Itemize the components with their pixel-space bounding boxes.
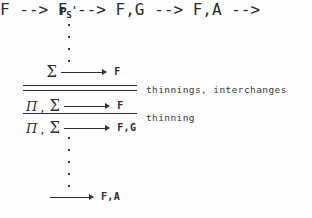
implication-arrow-icon	[64, 125, 110, 131]
sequent-succedent: F	[117, 101, 123, 111]
inference-rule-annotation: thinning	[146, 112, 195, 123]
top-formula-label: PS'	[60, 6, 78, 20]
sequent-succedent: F	[114, 67, 120, 77]
dot	[68, 161, 70, 163]
sequent-succedent: F,G	[117, 123, 136, 133]
antecedent-comma: ,	[37, 103, 49, 114]
sequent-row: Σ F	[46, 64, 121, 80]
sequent-row: Π , Σ F	[26, 98, 124, 114]
arrow-head	[89, 194, 94, 200]
vertical-dots-bottom	[68, 137, 70, 197]
dot	[68, 137, 70, 139]
inference-rule-single	[23, 113, 137, 114]
sigma-symbol: Σ	[49, 120, 59, 136]
arrow-head	[102, 69, 107, 75]
sigma-symbol: Σ	[46, 64, 56, 80]
dot	[68, 149, 70, 151]
pi-symbol: Π	[26, 122, 37, 134]
dot	[68, 24, 70, 26]
sequent-succedent: F,A	[101, 192, 120, 202]
implication-arrow-icon	[64, 103, 110, 109]
pi-symbol: Π	[26, 100, 37, 112]
sequent-antecedent: Π , Σ	[26, 98, 60, 114]
implication-arrow-icon	[50, 194, 94, 200]
dot	[68, 60, 70, 62]
dot	[68, 36, 70, 38]
derivation-figure: PS' F --> Σ F thinnings, interchanges F …	[0, 0, 312, 218]
sigma-symbol: Σ	[49, 98, 59, 114]
dot	[68, 185, 70, 187]
dot	[68, 48, 70, 50]
arrow-shaft	[50, 197, 90, 198]
sequent-antecedent: Σ	[46, 64, 57, 80]
arrow-shaft	[64, 106, 106, 107]
arrow-shaft	[61, 72, 103, 73]
dot	[68, 173, 70, 175]
inference-rule-annotation: thinnings, interchanges	[146, 84, 287, 95]
sequent-row: F,A	[46, 192, 120, 202]
sequent-row: Π , Σ F,G	[26, 120, 136, 136]
inference-rule-double	[23, 85, 137, 91]
arrow-head	[105, 125, 110, 131]
sequent-antecedent: Π , Σ	[26, 120, 60, 136]
implication-arrow-icon	[61, 69, 107, 75]
antecedent-comma: ,	[37, 125, 49, 136]
arrow-head	[105, 103, 110, 109]
arrow-shaft	[64, 128, 106, 129]
formula-prime: '	[72, 5, 78, 16]
